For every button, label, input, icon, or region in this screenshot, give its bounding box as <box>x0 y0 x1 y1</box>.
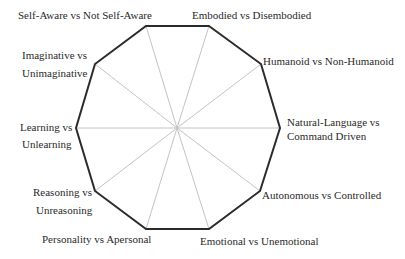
label-autonomous: Autonomous vs Controlled <box>262 189 382 201</box>
label-self-aware: Self-Aware vs Not Self-Aware <box>18 9 152 21</box>
label-learning-line2: Unlearning <box>22 138 72 150</box>
label-natural-language-line2: Command Driven <box>287 130 367 142</box>
label-embodied: Embodied vs Disembodied <box>192 9 312 21</box>
label-emotional: Emotional vs Unemotional <box>200 235 319 247</box>
spoke-personality <box>146 128 177 229</box>
spoke-autonomous <box>177 128 260 191</box>
label-natural-language-line1: Natural-Language vs <box>287 116 380 128</box>
spoke-self-aware <box>146 26 177 128</box>
label-humanoid: Humanoid vs Non-Humanoid <box>263 55 394 67</box>
label-personality: Personality vs Apersonal <box>42 233 151 245</box>
label-reasoning-line2: Unreasoning <box>36 204 93 216</box>
spoke-embodied <box>177 26 209 128</box>
spoke-humanoid <box>177 64 261 128</box>
spoke-imaginative <box>95 64 177 128</box>
label-reasoning-line1: Reasoning vs <box>33 186 92 198</box>
label-imaginative-line2: Unimaginative <box>22 67 87 79</box>
spoke-emotional <box>177 128 209 229</box>
label-imaginative-line1: Imaginative vs <box>22 49 87 61</box>
radar-diagram: Embodied vs Disembodied Humanoid vs Non-… <box>0 0 405 259</box>
label-learning-line1: Learning vs <box>20 121 72 133</box>
spoke-reasoning <box>95 128 177 191</box>
